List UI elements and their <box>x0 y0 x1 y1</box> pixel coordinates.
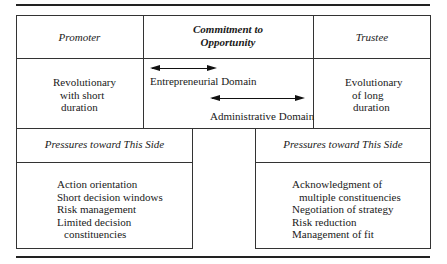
trustee-line: of long <box>345 89 402 102</box>
entrepreneurial-arrow <box>152 68 214 69</box>
trustee-description: Evolutionary of long duration <box>345 76 402 114</box>
commitment-header-line2: Opportunity <box>143 36 313 49</box>
list-item: Management of fit <box>292 228 401 241</box>
list-item: multiple constituencies <box>292 191 401 204</box>
arrow-right-head-icon <box>295 95 305 101</box>
list-item: Limited decision <box>57 216 163 229</box>
arrow-right-head-icon <box>207 65 217 71</box>
trustee-line: Evolutionary <box>345 76 402 89</box>
promoter-line: with short <box>53 89 116 102</box>
promoter-line: duration <box>53 101 116 114</box>
promoter-header: Promoter <box>16 31 143 44</box>
bottom-rule <box>16 256 430 258</box>
administrative-arrow <box>212 98 302 99</box>
list-item: constituencies <box>57 228 163 241</box>
entrepreneurial-domain-label: Entrepreneurial Domain <box>150 75 257 88</box>
pressures-right-divider <box>255 162 431 163</box>
administrative-domain-label: Administrative Domain <box>210 110 314 123</box>
pressures-right-title: Pressures toward This Side <box>255 138 431 151</box>
list-item: Risk management <box>57 203 163 216</box>
pressures-left-divider <box>16 162 193 163</box>
commitment-header-line1: Commitment to <box>143 23 313 36</box>
pressures-left-list: Action orientation Short decision window… <box>57 178 163 241</box>
header-divider <box>16 58 431 59</box>
list-item: Acknowledgment of <box>292 178 401 191</box>
trustee-line: duration <box>345 101 402 114</box>
list-item: Risk reduction <box>292 216 401 229</box>
top-rule <box>16 4 430 6</box>
promoter-description: Revolutionary with short duration <box>53 76 116 114</box>
pressures-left-title: Pressures toward This Side <box>16 138 193 151</box>
list-item: Short decision windows <box>57 191 163 204</box>
pressures-right-list: Acknowledgment of multiple constituencie… <box>292 178 401 241</box>
promoter-line: Revolutionary <box>53 76 116 89</box>
list-item: Action orientation <box>57 178 163 191</box>
trustee-header: Trustee <box>313 31 431 44</box>
list-item: Negotiation of strategy <box>292 203 401 216</box>
